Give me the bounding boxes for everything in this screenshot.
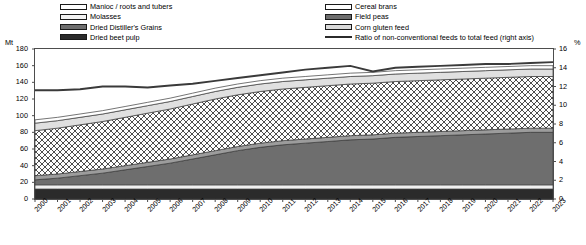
legend-label: Manioc / roots and tubers (90, 2, 172, 11)
chart-legend: Manioc / roots and tubers Molasses Dried… (0, 0, 586, 42)
right-axis-tick-label: 16 (559, 44, 583, 53)
stacked-area-chart (0, 44, 586, 204)
left-axis-tick-label: 120 (4, 94, 28, 103)
right-axis-tick-label: 2 (559, 175, 583, 184)
legend-item-dried-beet-pulp: Dried beet pulp (60, 33, 172, 43)
legend-item-molasses: Molasses (60, 12, 172, 22)
left-axis-tick-label: 180 (4, 44, 28, 53)
chart-figure: Manioc / roots and tubers Molasses Dried… (0, 0, 586, 245)
line-swatch-icon (325, 36, 352, 38)
mid-gray-swatch-icon (325, 14, 352, 20)
left-axis-tick-label: 40 (4, 161, 28, 170)
legend-label: Field peas (355, 12, 389, 21)
left-axis-tick-label: 20 (4, 177, 28, 186)
legend-label: Corn gluten feed (355, 23, 409, 32)
legend-item-ratio-line: Ratio of non-conventional feeds to total… (325, 33, 534, 43)
right-axis-tick-label: 10 (559, 100, 583, 109)
left-axis-tick-label: 60 (4, 144, 28, 153)
right-axis-tick-label: 12 (559, 82, 583, 91)
white-swatch-icon (60, 4, 87, 10)
legend-item-corn-gluten-feed: Corn gluten feed (325, 22, 534, 32)
legend-item-dried-distillers-grains: Dried Distiller's Grains (60, 22, 172, 32)
dark-gray-swatch-icon (60, 34, 87, 40)
legend-label: Ratio of non-conventional feeds to total… (355, 33, 534, 42)
right-axis-tick-label: 8 (559, 119, 583, 128)
right-axis-tick-label: 6 (559, 138, 583, 147)
left-axis-tick-label: 80 (4, 127, 28, 136)
plot-area: 020406080100120140160180 0246810121416 (0, 44, 586, 204)
legend-label: Dried beet pulp (90, 33, 140, 42)
left-axis-tick-label: 0 (4, 194, 28, 203)
light-gray-swatch-icon (325, 24, 352, 30)
area-molasses (35, 185, 553, 189)
legend-label: Dried Distiller's Grains (90, 23, 162, 32)
legend-item-field-peas: Field peas (325, 12, 534, 22)
left-axis-tick-label: 140 (4, 77, 28, 86)
legend-label: Cereal brans (355, 2, 397, 11)
legend-column-right: Cereal brans Field peas Corn gluten feed… (325, 2, 534, 43)
very-light-gray-swatch-icon (60, 14, 87, 20)
legend-item-cereal-brans: Cereal brans (325, 2, 534, 12)
left-axis-tick-label: 160 (4, 61, 28, 70)
x-axis-labels: 2000200120022003200420052006200720082009… (0, 204, 586, 245)
legend-item-manioc-roots-and-tubers: Manioc / roots and tubers (60, 2, 172, 12)
hatched-swatch-icon (325, 4, 352, 10)
legend-label: Molasses (90, 12, 121, 21)
mid-gray-swatch-icon (60, 24, 87, 30)
left-axis-tick-label: 100 (4, 111, 28, 120)
legend-column-left: Manioc / roots and tubers Molasses Dried… (60, 2, 172, 43)
right-axis-tick-label: 14 (559, 63, 583, 72)
right-axis-tick-label: 4 (559, 157, 583, 166)
